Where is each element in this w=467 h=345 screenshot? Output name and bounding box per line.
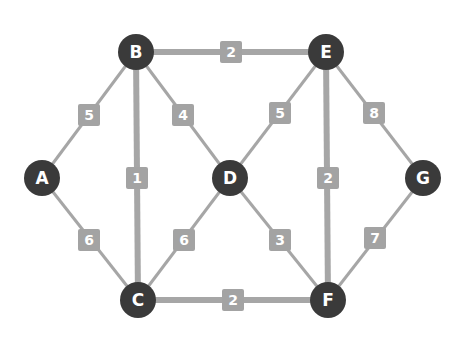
node-F: F: [310, 282, 346, 318]
svg-text:6: 6: [179, 232, 189, 248]
svg-text:A: A: [35, 168, 49, 188]
node-D: D: [212, 160, 248, 196]
edge-weight-A-C: 6: [78, 229, 100, 251]
weighted-graph-diagram: 562146253287ABCDEFG: [0, 0, 467, 345]
svg-text:E: E: [320, 42, 332, 62]
edge-weight-C-F: 2: [222, 289, 244, 311]
edge-weight-E-F: 2: [317, 167, 339, 189]
svg-text:2: 2: [226, 44, 236, 60]
edge-weight-B-D: 4: [172, 104, 194, 126]
edge-weight-E-G: 8: [363, 102, 385, 124]
node-C: C: [120, 282, 156, 318]
svg-text:G: G: [416, 168, 430, 188]
svg-text:F: F: [322, 290, 334, 310]
svg-text:2: 2: [228, 292, 238, 308]
edge-weight-B-E: 2: [220, 41, 242, 63]
svg-text:3: 3: [275, 232, 285, 248]
svg-text:4: 4: [178, 107, 188, 123]
svg-text:B: B: [130, 42, 143, 62]
edge-weight-B-C: 1: [126, 167, 148, 189]
node-A: A: [24, 160, 60, 196]
svg-text:2: 2: [323, 170, 333, 186]
svg-text:5: 5: [275, 105, 285, 121]
node-E: E: [308, 34, 344, 70]
node-G: G: [405, 160, 441, 196]
edge-weight-D-F: 3: [269, 229, 291, 251]
node-B: B: [118, 34, 154, 70]
edge-weight-D-E: 5: [269, 102, 291, 124]
svg-text:D: D: [223, 168, 237, 188]
svg-text:1: 1: [132, 170, 142, 186]
svg-text:7: 7: [370, 230, 380, 246]
svg-text:8: 8: [369, 105, 379, 121]
edge-weight-C-D: 6: [173, 229, 195, 251]
svg-text:6: 6: [84, 232, 94, 248]
edge-weight-A-B: 5: [78, 104, 100, 126]
svg-text:C: C: [132, 290, 144, 310]
graph-canvas: 562146253287ABCDEFG: [0, 0, 467, 345]
edge-weight-F-G: 7: [364, 227, 386, 249]
svg-text:5: 5: [84, 107, 94, 123]
